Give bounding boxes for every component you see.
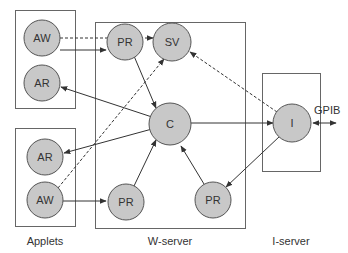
node-pr-bl: PR (108, 184, 144, 220)
node-pr-br: PR (195, 182, 231, 218)
edge-pr-br-c (181, 146, 204, 184)
gpib-label: GPIB (314, 104, 340, 116)
node-c: C (149, 103, 191, 145)
applets-caption: Applets (27, 235, 64, 247)
node-i-label: I (290, 117, 293, 129)
node-aw1: AW (24, 20, 60, 56)
w-server-caption: W-server (148, 235, 193, 247)
node-pr-top: PR (107, 24, 143, 60)
node-sv-label: SV (165, 36, 180, 48)
edge-c-ar2 (64, 129, 152, 153)
edge-i-pr-br (226, 136, 280, 187)
node-aw1-label: AW (33, 32, 51, 44)
node-ar2: AR (27, 139, 63, 175)
i-server-caption: I-server (272, 235, 310, 247)
node-i: I (273, 104, 311, 142)
node-ar1: AR (24, 65, 60, 101)
node-sv: SV (153, 23, 191, 61)
edge-aw2-sv (58, 59, 164, 188)
node-ar2-label: AR (37, 151, 52, 163)
edge-c-ar1 (61, 87, 152, 117)
node-aw2: AW (27, 182, 63, 218)
architecture-diagram: AW AR AR AW PR SV C PR PR I GPIB Applets… (0, 0, 348, 253)
node-pr-top-label: PR (117, 36, 132, 48)
node-pr-br-label: PR (205, 194, 220, 206)
node-aw2-label: AW (36, 194, 54, 206)
node-pr-bl-label: PR (118, 196, 133, 208)
node-ar1-label: AR (34, 77, 49, 89)
edge-i-sv (190, 52, 277, 112)
edge-pr-bl-c (134, 140, 156, 186)
node-c-label: C (166, 118, 174, 130)
